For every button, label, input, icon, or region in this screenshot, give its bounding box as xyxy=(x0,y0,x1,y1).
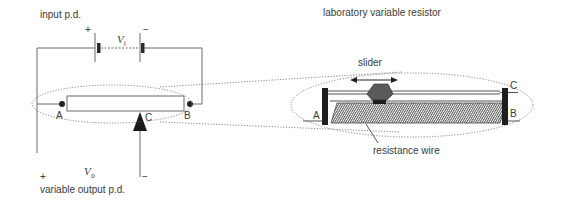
output-minus-sign: − xyxy=(142,171,148,182)
terminal-c-label-right: C xyxy=(510,80,517,91)
slider-label: slider xyxy=(358,57,383,68)
terminal-a-label-right: A xyxy=(313,110,320,121)
circuit-schematic: input p.d. + − V i A B C + − V o vari xyxy=(32,9,202,195)
lab-resistor-illustration: laboratory variable resistor slider A B … xyxy=(291,7,533,156)
resistance-wire-label: resistance wire xyxy=(373,145,440,156)
resistance-coil xyxy=(331,103,506,123)
slider-icon[interactable] xyxy=(367,84,393,100)
output-plus-sign: + xyxy=(40,171,46,182)
terminal-a-dot xyxy=(59,101,65,107)
output-pd-label: variable output p.d. xyxy=(40,184,125,195)
double-arrow-icon xyxy=(350,77,398,83)
input-pd-label: input p.d. xyxy=(40,9,81,20)
terminal-b-label-right: B xyxy=(510,108,517,119)
end-post-b xyxy=(502,88,508,125)
battery-minus-sign: − xyxy=(143,24,149,35)
wire-pointer-line xyxy=(366,124,378,143)
lab-resistor-title: laboratory variable resistor xyxy=(323,7,441,18)
terminal-b-label: B xyxy=(184,110,191,121)
battery-plus-sign: + xyxy=(85,24,91,35)
resistor-body xyxy=(67,96,184,111)
terminal-a-label: A xyxy=(56,110,63,121)
projection-line-bottom xyxy=(160,122,400,132)
end-post-a xyxy=(322,88,328,125)
input-voltage-subscript: i xyxy=(124,40,126,47)
potential-divider-diagram: input p.d. + − V i A B C + − V o vari xyxy=(0,0,572,210)
output-voltage-subscript: o xyxy=(91,172,95,179)
